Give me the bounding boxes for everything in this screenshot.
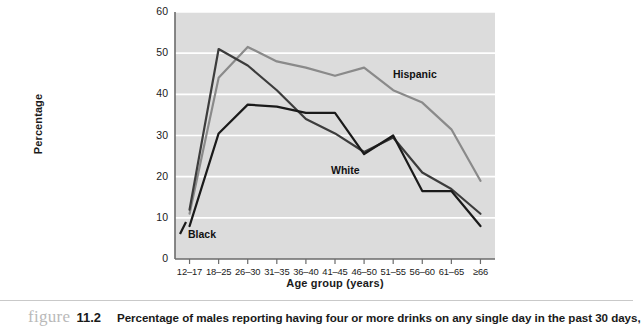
caption-divider [0,300,633,301]
caption-text: Percentage of males reporting having fou… [117,311,641,324]
x-axis-tick-label: ≥66 [463,266,497,277]
y-axis-tick-label: 40 [142,87,168,99]
y-axis-tick-label: 60 [142,5,168,17]
figure-caption: figure 11.2 Percentage of males reportin… [28,307,628,327]
series-label-white: White [331,164,360,176]
y-axis-title: Percentage [32,64,44,184]
x-axis-title: Age group (years) [175,277,495,289]
y-axis-tick-label: 10 [142,211,168,223]
y-axis-tick-label: 50 [142,46,168,58]
y-axis-tick-label: 20 [142,170,168,182]
line-chart-svg [0,0,633,295]
series-label-hispanic: Hispanic [393,68,437,80]
chart-area: Percentage Age group (years) 01020304050… [0,0,633,295]
series-label-black: Black [188,228,216,240]
caption-figure-word: figure [28,307,70,327]
y-axis-tick-label: 0 [142,252,168,264]
y-axis-tick-label: 30 [142,129,168,141]
caption-figure-number: 11.2 [76,310,101,325]
